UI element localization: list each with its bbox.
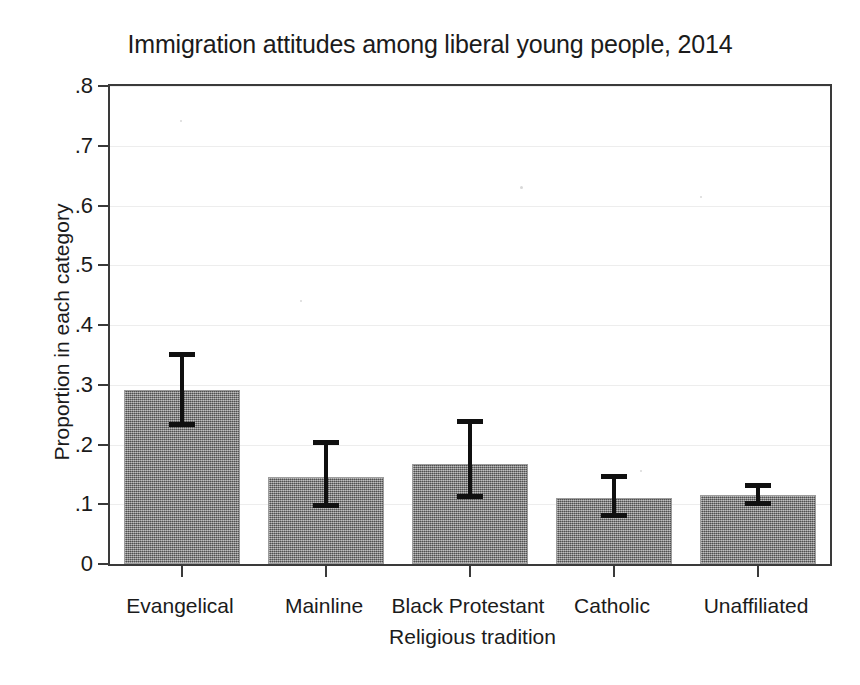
y-axis-tick-label: 0 — [81, 551, 93, 577]
y-gridline — [110, 385, 830, 386]
scan-speckle — [520, 186, 523, 189]
x-axis-tick — [181, 564, 183, 577]
y-axis-tick-label: .6 — [75, 193, 93, 219]
x-axis-tick — [469, 564, 471, 577]
error-bar-stem — [612, 476, 616, 515]
error-bar-cap-upper — [601, 474, 627, 479]
y-axis-tick-label: .4 — [75, 312, 93, 338]
y-gridline — [110, 265, 830, 266]
error-bar-cap-upper — [169, 352, 195, 357]
y-axis-tick — [98, 444, 110, 446]
y-axis-tick-label: .2 — [75, 432, 93, 458]
error-bar-cap-lower — [457, 494, 483, 499]
plot-area: 0.1.2.3.4.5.6.7.8 — [108, 84, 832, 566]
y-axis-tick-label: .8 — [75, 73, 93, 99]
y-axis-tick — [98, 324, 110, 326]
y-gridline — [110, 86, 830, 87]
y-axis-tick — [98, 145, 110, 147]
error-bar-cap-upper — [745, 483, 771, 488]
error-bar-cap-lower — [169, 422, 195, 427]
y-axis-tick — [98, 503, 110, 505]
scan-speckle — [700, 196, 702, 198]
x-axis-title: Religious tradition — [113, 625, 832, 649]
chart-figure: Immigration attitudes among liberal youn… — [0, 0, 860, 685]
y-axis-tick-label: .5 — [75, 252, 93, 278]
error-bar-cap-lower — [745, 501, 771, 506]
error-bar-cap-lower — [313, 503, 339, 508]
chart-title: Immigration attitudes among liberal youn… — [0, 30, 860, 59]
y-axis-tick — [98, 563, 110, 565]
y-gridline — [110, 206, 830, 207]
scan-speckle — [640, 470, 642, 472]
y-axis-tick-label: .7 — [75, 133, 93, 159]
error-bar-cap-upper — [313, 440, 339, 445]
x-axis-tick-label: Catholic — [574, 594, 650, 618]
y-axis-tick-label: .3 — [75, 372, 93, 398]
scan-speckle — [180, 120, 182, 122]
scan-speckle — [300, 300, 302, 302]
error-bar-cap-lower — [601, 513, 627, 518]
x-axis-tick-label: Black Protestant — [392, 594, 545, 618]
x-axis-tick-label: Mainline — [285, 594, 363, 618]
y-axis-title: Proportion in each category — [50, 92, 74, 572]
error-bar-stem — [468, 421, 472, 497]
y-axis-tick — [98, 264, 110, 266]
y-gridline — [110, 146, 830, 147]
x-axis-tick — [325, 564, 327, 577]
y-gridline — [110, 325, 830, 326]
error-bar-stem — [180, 354, 184, 425]
y-axis-tick — [98, 85, 110, 87]
x-axis-tick-label: Evangelical — [126, 594, 233, 618]
y-axis-tick — [98, 384, 110, 386]
x-axis-tick — [613, 564, 615, 577]
x-axis-tick-label: Unaffiliated — [704, 594, 809, 618]
x-axis-tick — [757, 564, 759, 577]
y-axis-tick — [98, 205, 110, 207]
error-bar-cap-upper — [457, 419, 483, 424]
y-axis-tick-label: .1 — [75, 491, 93, 517]
error-bar-stem — [324, 442, 328, 507]
